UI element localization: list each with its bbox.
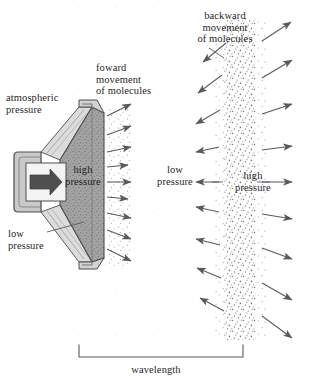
- label-foward-movement: foward movement of molecules: [96, 62, 176, 97]
- label-high-pressure-band: high pressure: [224, 170, 282, 193]
- label-low-pressure-center: low pressure: [148, 164, 202, 187]
- label-high-pressure-cone: high pressure: [57, 164, 109, 187]
- label-wavelength: wavelength: [111, 364, 201, 376]
- label-atmospheric-pressure: atmospheric pressure: [6, 92, 82, 115]
- sound-wave-diagram: backward movement of molecules foward mo…: [0, 0, 311, 387]
- label-low-pressure-left: low pressure: [8, 228, 62, 251]
- label-backward-movement: backward movement of molecules: [182, 10, 268, 45]
- wavelength-bracket: [0, 0, 311, 387]
